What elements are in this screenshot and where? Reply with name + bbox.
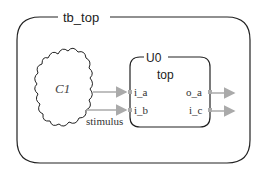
diagram: tb_top C1 stimulus U0 top i_a i_b o_a i_… xyxy=(0,0,266,175)
port-i_a: i_a xyxy=(134,86,148,98)
stimulus-label: stimulus xyxy=(86,115,123,127)
cloud-label: C1 xyxy=(55,81,70,96)
module-name: top xyxy=(157,68,174,82)
port-o_a: o_a xyxy=(186,86,202,98)
port-i_b: i_b xyxy=(134,104,149,116)
port-i_c: i_c xyxy=(189,104,203,116)
instance-name: U0 xyxy=(146,51,162,65)
testbench-label: tb_top xyxy=(63,10,99,25)
